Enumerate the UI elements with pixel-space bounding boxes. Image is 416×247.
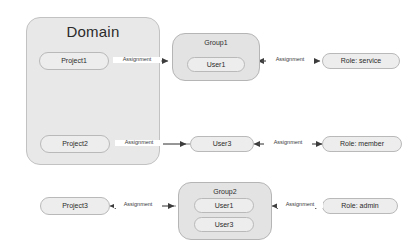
- edge-label-project2-user3: Assignment: [115, 140, 163, 146]
- diagram-canvas: Domain Project1 Project2 Group1 User1 Ro…: [0, 0, 416, 247]
- group2-title: Group2: [179, 188, 271, 195]
- edge-label-project3-group2: Assignment: [114, 202, 162, 208]
- node-group1-user1[interactable]: User1: [187, 57, 245, 72]
- node-project3-label: Project3: [62, 202, 88, 209]
- node-group1-user1-label: User1: [207, 61, 226, 68]
- node-user3-label: User3: [213, 140, 232, 147]
- edge-label-project1-group1: Assignment: [113, 57, 161, 63]
- node-project1-label: Project1: [61, 57, 87, 64]
- node-group2-user3-label: User3: [215, 221, 234, 228]
- node-group2-user1[interactable]: User1: [194, 198, 254, 213]
- node-group2-user1-label: User1: [215, 202, 234, 209]
- node-role-member[interactable]: Role: member: [322, 136, 402, 152]
- group1-title: Group1: [173, 39, 259, 46]
- edge-label-user3-role-member: Assignment: [264, 140, 312, 146]
- node-project2[interactable]: Project2: [40, 135, 110, 153]
- node-project2-label: Project2: [62, 140, 88, 147]
- node-role-member-label: Role: member: [340, 140, 384, 147]
- node-group2-user3[interactable]: User3: [194, 217, 254, 232]
- node-project1[interactable]: Project1: [39, 52, 109, 70]
- node-user3[interactable]: User3: [190, 136, 254, 152]
- node-role-service[interactable]: Role: service: [322, 53, 400, 69]
- domain-title: Domain: [27, 24, 159, 40]
- edge-label-group1-role-service: Assignment: [266, 57, 314, 63]
- edge-label-group2-role-admin: Assignment: [277, 202, 323, 208]
- node-project3[interactable]: Project3: [40, 197, 110, 215]
- node-role-admin-label: Role: admin: [341, 202, 378, 209]
- node-role-admin[interactable]: Role: admin: [322, 198, 398, 214]
- node-role-service-label: Role: service: [341, 57, 381, 64]
